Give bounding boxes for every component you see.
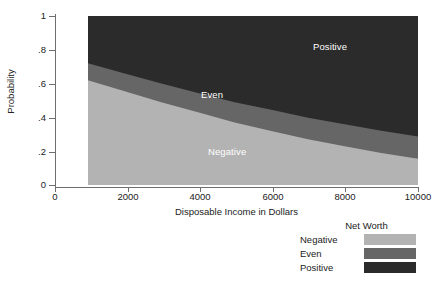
- legend-label-negative: Negative: [300, 234, 358, 245]
- legend-row-negative: Negative: [300, 233, 436, 246]
- legend-label-positive: Positive: [300, 262, 358, 273]
- x-tick-label-0: 0: [35, 192, 75, 202]
- x-tick-label-4000: 4000: [180, 192, 220, 202]
- legend-swatch-even: [364, 248, 416, 259]
- y-axis-title: Probability: [5, 44, 16, 140]
- legend-label-even: Even: [300, 248, 358, 259]
- legend-row-even: Even: [300, 247, 436, 260]
- legend-swatch-negative: [364, 234, 416, 245]
- x-axis-title: Disposable Income in Dollars: [55, 206, 418, 217]
- plot-area: Negative: [88, 16, 418, 185]
- y-tick-02: [49, 152, 55, 153]
- y-tick-04: [49, 118, 55, 119]
- series-label-positive: Positive: [313, 41, 347, 52]
- y-tick-0: [49, 185, 55, 186]
- y-tick-08: [49, 50, 55, 51]
- x-axis-line: [55, 187, 418, 188]
- y-tick-label-1: 1: [0, 11, 46, 21]
- y-tick-label-0: 0: [0, 180, 46, 190]
- y-tick-1: [49, 16, 55, 17]
- y-axis-line: [55, 14, 56, 187]
- legend-swatch-positive: [364, 262, 416, 273]
- legend: Net Worth Negative Even Positive: [300, 220, 436, 275]
- y-tick-label-02: .2: [0, 147, 46, 157]
- x-tick-label-10000: 10000: [395, 192, 439, 202]
- series-label-even: Even: [201, 89, 223, 100]
- series-label-negative: Negative: [208, 146, 246, 157]
- legend-row-positive: Positive: [300, 261, 436, 274]
- chart-figure: Negative Even Positive 1 .8 .6 .4 .2 0 0…: [0, 0, 439, 284]
- stacked-area-svg: [88, 16, 418, 185]
- x-tick-label-6000: 6000: [253, 192, 293, 202]
- x-tick-label-2000: 2000: [108, 192, 148, 202]
- x-tick-label-8000: 8000: [325, 192, 365, 202]
- legend-title: Net Worth: [304, 220, 429, 231]
- y-tick-06: [49, 84, 55, 85]
